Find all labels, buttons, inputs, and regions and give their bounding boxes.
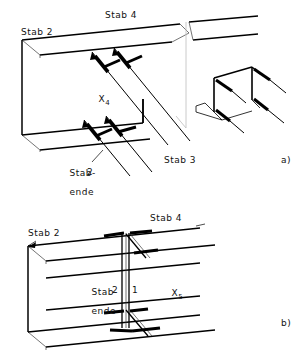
label-stab2-a: Stab 2 (21, 27, 53, 37)
label-x4-a: X4 (85, 84, 110, 118)
stab4-top-flange-inner-b (46, 245, 215, 261)
caption-a: a) (281, 155, 291, 165)
caption-b: b) (281, 318, 291, 328)
technical-drawing: .hv{stroke:#000;stroke-width:1.6;fill:no… (0, 0, 305, 358)
detached-channel-piece (196, 67, 260, 120)
stab4-top-flange-inner (40, 34, 258, 55)
stab2-bottom-flange-inner-b (46, 330, 215, 347)
panel-b-geometry (28, 224, 215, 350)
label-stab4-a: Stab 4 (105, 10, 137, 20)
stab2-bottom-flange-inner (40, 139, 150, 150)
label-stab2-b: Stab 2 (28, 228, 60, 238)
stab4-top-flange (22, 16, 258, 40)
figure-canvas: .hv{stroke:#000;stroke-width:1.6;fill:no… (0, 0, 305, 358)
weld-marks-lower-band (87, 120, 136, 140)
panel-a-geometry (22, 16, 286, 176)
label-stab4-b: Stab 4 (150, 213, 182, 223)
label-stab3-a: Stab 3 (164, 155, 196, 165)
label-stabende-line2-a: ende (69, 187, 94, 197)
stab4-leader-b (196, 224, 205, 226)
label-x5-sub: 5 (178, 293, 182, 301)
inner-face-upper-b (46, 263, 200, 278)
label-stabende-line2-b: ende (91, 306, 116, 316)
center-joint-verticals-b (122, 233, 129, 328)
label-x4-sub: 4 (105, 99, 109, 107)
weld-marks-detached (216, 69, 286, 133)
label-number-1-b: 1 (132, 285, 138, 295)
label-x5-b: X5 (158, 278, 183, 312)
label-stabende-number-a: 2 (87, 167, 93, 177)
label-number-2-b: 2 (112, 285, 118, 295)
